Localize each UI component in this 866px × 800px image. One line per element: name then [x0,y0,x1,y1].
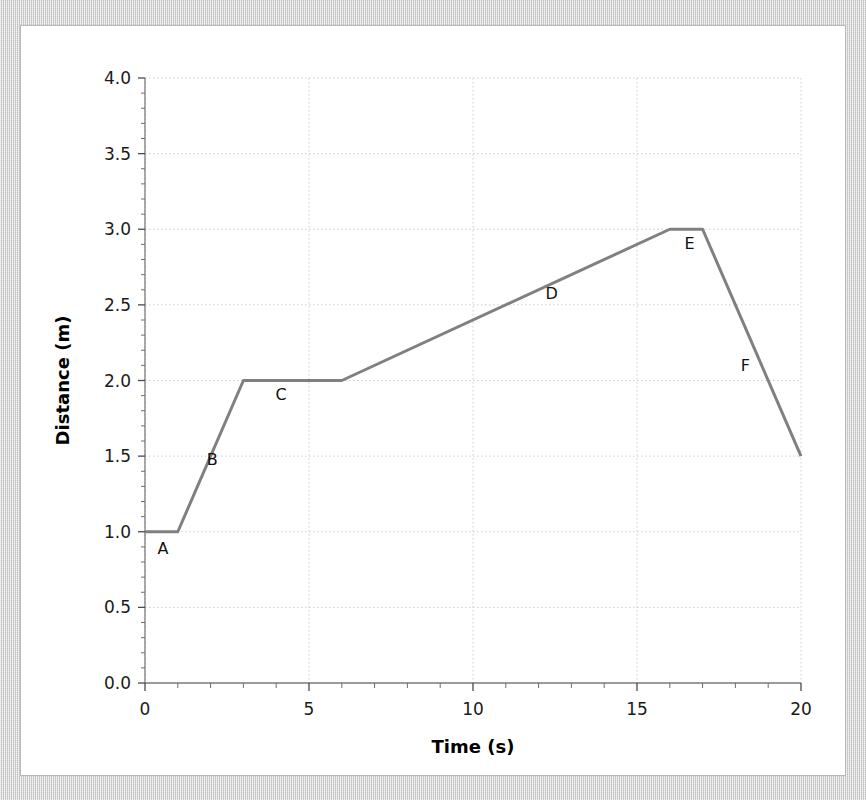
x-axis-tick-label: 0 [140,699,151,719]
tick-label-layer: 0.00.51.01.52.02.53.03.54.005101520 [104,68,812,719]
segment-label-f: F [741,356,750,375]
y-axis-tick-label: 1.5 [104,446,131,466]
segment-label-layer: ABCDEF [158,234,750,559]
y-axis-tick-label: 3.0 [104,219,131,239]
x-axis-tick-label: 20 [790,699,812,719]
x-axis-tick-label: 15 [626,699,648,719]
y-axis-tick-label: 0.5 [104,597,131,617]
x-axis-title: Time (s) [432,736,515,757]
figure-card: 0.00.51.01.52.02.53.03.54.005101520 ABCD… [20,25,846,776]
segment-label-e: E [684,234,694,253]
tick-layer [138,78,801,691]
y-axis-tick-label: 2.0 [104,371,131,391]
x-axis-tick-label: 10 [462,699,484,719]
y-axis-tick-label: 3.5 [104,144,131,164]
x-axis-tick-label: 5 [304,699,315,719]
distance-time-chart: 0.00.51.01.52.02.53.03.54.005101520 ABCD… [21,26,847,777]
y-axis-tick-label: 1.0 [104,522,131,542]
segment-label-c: C [276,385,287,404]
segment-label-b: B [207,450,218,469]
segment-label-d: D [546,284,558,303]
y-axis-tick-label: 4.0 [104,68,131,88]
segment-label-a: A [158,539,169,558]
y-axis-tick-label: 0.0 [104,673,131,693]
y-axis-tick-label: 2.5 [104,295,131,315]
y-axis-title: Distance (m) [52,316,73,446]
